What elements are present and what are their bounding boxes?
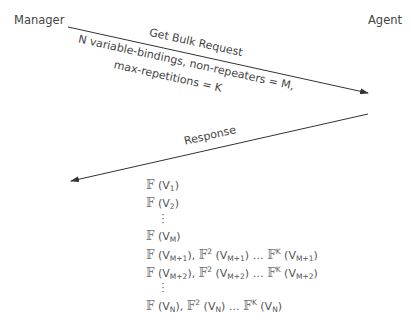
response-arrow bbox=[71, 114, 368, 181]
response-row-vn: 𝔽 (VN), 𝔽2 (VN) … 𝔽K (VN) bbox=[146, 298, 282, 314]
response-row-v1: 𝔽 (V1) bbox=[146, 178, 179, 193]
agent-label: Agent bbox=[368, 13, 402, 27]
vertical-ellipsis: ··· bbox=[161, 282, 165, 294]
response-row-vm: 𝔽 (VM) bbox=[146, 229, 181, 244]
function-symbol: 𝔽 bbox=[146, 196, 155, 210]
function-symbol: 𝔽 bbox=[146, 178, 155, 192]
vertical-ellipsis: ··· bbox=[161, 213, 165, 225]
response-row-vm2: 𝔽 (VM+2), 𝔽2 (VM+2) … 𝔽K (VM+2) bbox=[146, 265, 318, 281]
response-row-vm1: 𝔽 (VM+1), 𝔽2 (VM+1) … 𝔽K (VM+1) bbox=[146, 247, 318, 263]
function-symbol: 𝔽 bbox=[146, 229, 155, 243]
sequence-diagram: Manager Agent Get Bulk Request N variabl… bbox=[0, 0, 411, 321]
manager-label: Manager bbox=[14, 13, 64, 27]
